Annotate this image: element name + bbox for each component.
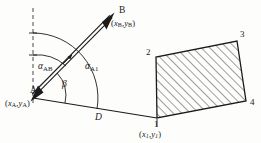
angle-beta-symbol: β [62,79,67,89]
angle-alpha-A1-subscript: A1 [90,65,99,72]
vertex-1-coordinates: (x1,y1) [139,130,161,139]
angle-alpha-AB-label: αAB [38,62,53,72]
vector-A-to-B [32,15,112,96]
figure-canvas: A (xA,yA) B (xB,yB) 1 (x1,y1) 2 3 4 αAB … [0,0,261,143]
point-A-label: A [30,86,37,96]
point-A-paren-close: ) [27,98,30,108]
point-A-coordinates: (xA,yA) [5,99,30,108]
polygon-vertex-4-number: 4 [250,98,255,107]
angle-alpha-A1-label: αA1 [85,62,99,72]
parcel-polygon [156,41,246,118]
polygon-vertex-3-number: 3 [240,30,245,39]
vertex-1-paren-close: ) [158,129,161,139]
point-B-coordinates: (xB,yB) [111,19,135,28]
angle-alpha-AB-subscript: AB [43,65,53,72]
polygon-vertex-1-number: 1 [154,120,159,129]
angle-beta-label: β [62,80,67,90]
point-B-label: B [119,6,125,16]
distance-D-label: D [95,113,102,123]
point-B-paren-close: ) [132,18,135,28]
polygon-vertex-2-number: 2 [146,48,151,57]
